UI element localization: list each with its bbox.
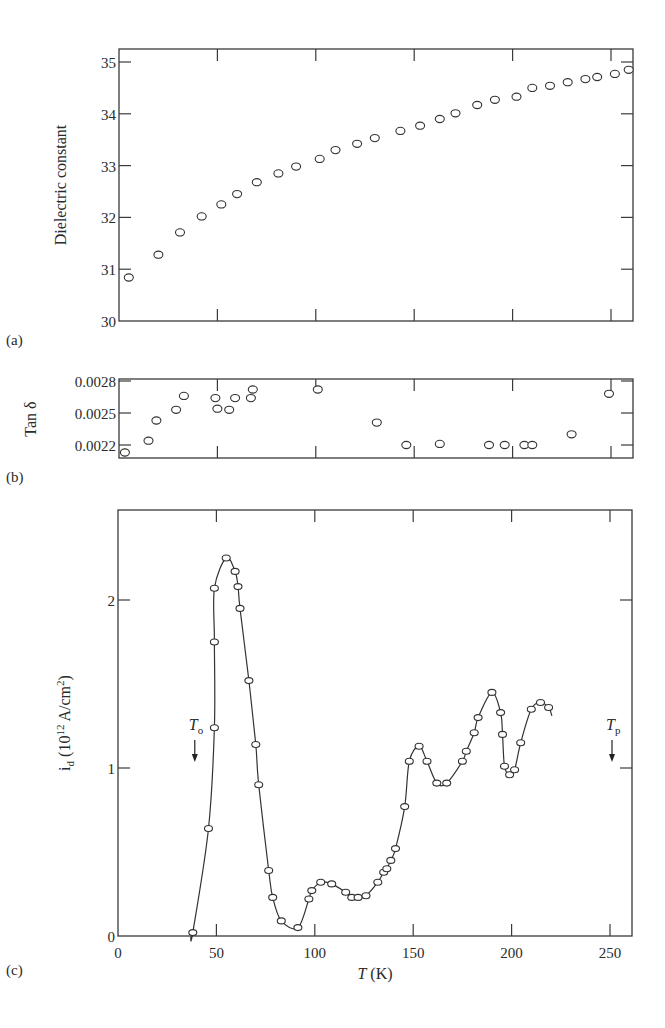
data-point [545, 705, 553, 711]
data-point [511, 767, 519, 773]
panel-c-data-points [189, 555, 553, 936]
data-point [387, 857, 395, 863]
data-point [210, 725, 218, 731]
data-point [610, 70, 619, 77]
data-point [246, 395, 255, 402]
data-point [317, 879, 325, 885]
annotation-label: To [189, 716, 204, 736]
data-point [605, 390, 614, 397]
data-point [211, 395, 220, 402]
data-point [213, 405, 222, 412]
data-point [490, 96, 499, 103]
y-tick-label: 2 [108, 593, 116, 609]
data-point [154, 251, 163, 258]
data-point [423, 758, 431, 764]
data-point [497, 710, 505, 716]
data-point [210, 585, 218, 591]
y-tick-label: 31 [101, 262, 116, 278]
data-point [517, 740, 525, 746]
data-point [233, 191, 242, 198]
data-point [231, 568, 239, 574]
data-point [265, 868, 273, 874]
data-point [354, 894, 362, 900]
data-point [501, 763, 509, 769]
data-point [416, 122, 425, 129]
y-tick-label: 1 [108, 761, 116, 777]
data-point [488, 689, 496, 695]
data-point [370, 135, 379, 142]
y-tick-label: 33 [101, 159, 116, 175]
data-point [245, 678, 253, 684]
data-point [172, 406, 181, 413]
data-point [593, 73, 602, 80]
data-point [252, 179, 261, 186]
panel-b-label: (b) [6, 469, 24, 486]
panel-a-frame [119, 49, 633, 321]
data-point [331, 147, 340, 154]
data-point [415, 743, 423, 749]
data-point [433, 780, 441, 786]
annotation-To: To [189, 716, 204, 762]
data-point [372, 419, 381, 426]
data-point [563, 79, 572, 86]
data-point [402, 441, 411, 448]
data-point [443, 780, 451, 786]
x-tick-label: 150 [402, 945, 425, 961]
data-point [294, 925, 302, 931]
data-point [205, 826, 213, 832]
data-point [234, 584, 242, 590]
data-point [527, 706, 535, 712]
data-point [512, 93, 521, 100]
panel-a-ticks: 303132333435 [101, 49, 633, 330]
data-point [225, 406, 234, 413]
data-point [362, 893, 370, 899]
data-point [473, 101, 482, 108]
data-point [255, 782, 263, 788]
data-point [269, 894, 277, 900]
data-point [274, 170, 283, 177]
data-point [405, 758, 413, 764]
arrow-head-icon [192, 754, 198, 762]
data-point [396, 127, 405, 134]
y-tick-label: 0.0022 [75, 438, 116, 454]
data-point [451, 110, 460, 117]
data-point [120, 449, 129, 456]
figure: 303132333435 Dielectric constant (a) 0.0… [0, 0, 665, 1028]
x-tick-label: 0 [114, 945, 122, 961]
data-point [217, 201, 226, 208]
data-point [342, 889, 350, 895]
data-point [383, 866, 391, 872]
x-tick-label: 50 [209, 945, 224, 961]
y-tick-label: 30 [101, 314, 116, 330]
data-point [546, 82, 555, 89]
data-point [236, 605, 244, 611]
data-point [197, 213, 206, 220]
panel-c-x-axis-label: T (K) [357, 965, 392, 983]
data-point [231, 395, 240, 402]
x-tick-label: 250 [599, 945, 622, 961]
panel-b-tan-delta: 0.00220.00250.0028 Tan δ (b) [6, 374, 633, 486]
data-point [315, 155, 324, 162]
data-point [222, 555, 230, 561]
data-point [144, 437, 153, 444]
y-tick-label: 34 [101, 107, 117, 123]
data-point [581, 76, 590, 83]
annotation-Tp: Tp [606, 716, 621, 762]
panel-a-y-axis-label: Dielectric constant [52, 124, 69, 245]
data-point [353, 140, 362, 147]
panel-c-smooth-curve [191, 558, 552, 942]
data-point [537, 700, 545, 706]
x-tick-label: 100 [304, 945, 327, 961]
y-tick-label: 0.0025 [75, 406, 116, 422]
data-point [528, 84, 537, 91]
panel-a-data-points [124, 66, 633, 281]
data-point [401, 804, 409, 810]
panel-b-data-points [120, 386, 613, 456]
data-point [313, 386, 322, 393]
panel-b-y-axis-label: Tan δ [22, 401, 39, 436]
data-point [189, 930, 197, 936]
data-point [392, 846, 400, 852]
data-point [292, 163, 301, 170]
data-point [435, 440, 444, 447]
data-point [308, 888, 316, 894]
